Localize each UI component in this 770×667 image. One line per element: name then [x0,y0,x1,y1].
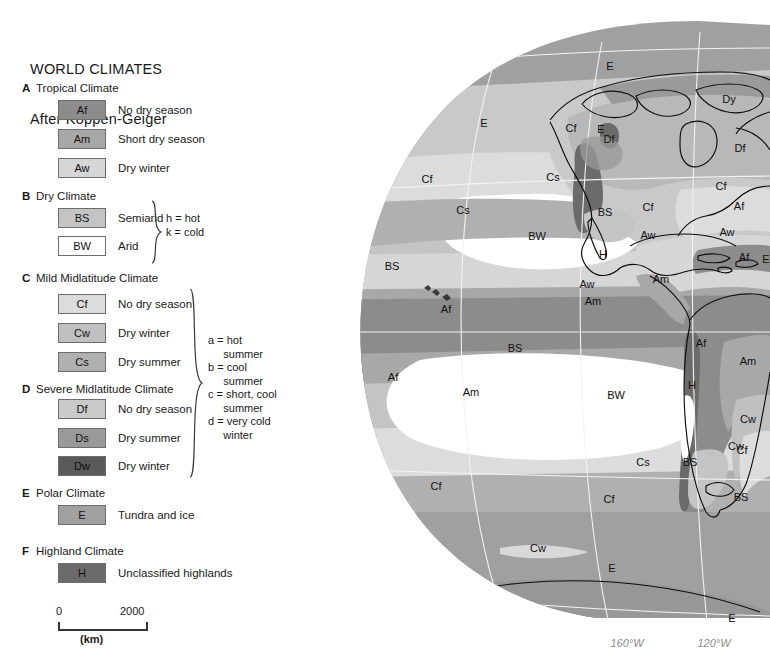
category-letter-b: B [22,190,36,202]
legend-title-line1: WORLD CLIMATES [30,61,167,78]
legend-category-e: EPolar Climate [22,487,105,499]
coastline-antarctica-peninsula [452,598,522,610]
map-label-cf-4: Cf [422,173,434,185]
globe-body [300,0,770,667]
legend-category-d: DSevere Midlatitude Climate [22,383,173,395]
scale-max-label: 2000 [120,605,144,617]
swatch-label-af: No dry season [118,100,192,120]
swatch-af: Af [58,100,106,120]
swatch-ds: Ds [58,428,106,448]
scale-bar-graphic [58,622,148,631]
swatch-label-aw: Dry winter [118,158,170,178]
map-label-h-31: H [688,379,696,391]
map-label-bs-25: BS [508,342,523,354]
scale-bar-cap-right [146,622,148,631]
legend-panel: WORLD CLIMATES After Köppen-Geiger ATrop… [0,0,300,667]
category-letter-d: D [22,383,36,395]
legend-category-f: FHighland Climate [22,545,124,557]
legend-category-c: CMild Midlatitude Climate [22,272,158,284]
map-label-e-1: E [480,117,487,129]
category-letter-a: A [22,82,36,94]
scale-units-label: (km) [80,633,103,645]
swatch-bw: BW [58,236,106,256]
scale-bar-cap-left [58,622,60,631]
map-label-e-42: E [728,612,735,624]
category-name-e: Polar Climate [36,487,105,499]
swatch-label-cf: No dry season [118,294,192,314]
map-label-cf-6: Cf [566,122,578,134]
map-label-dy-2: Dy [722,93,736,105]
map-label-cw-32: Cw [740,413,756,425]
swatch-e: E [58,505,106,525]
map-label-df-7: Df [604,133,616,145]
map-label-cf-12: Cf [716,180,728,192]
map-label-am-28: Am [463,386,480,398]
swatch-label-df: No dry season [118,399,192,419]
brace-cd [185,288,205,478]
map-label-bs-39: BS [734,491,749,503]
swatch-h: H [58,563,106,583]
map-label-e-20: E [762,253,769,265]
swatch-label-am: Short dry season [118,129,205,149]
swatch-label-h: Unclassified highlands [118,563,232,583]
swatch-df: Df [58,399,106,419]
map-label-am-29: Am [740,355,757,367]
swatch-cw: Cw [58,323,106,343]
category-letter-e: E [22,487,36,499]
map-label-bw-30: BW [607,389,625,401]
map-longitude-labels: 160°W120°W [610,637,732,649]
swatch-am: Am [58,129,106,149]
brace-b [148,200,164,264]
scale-bar-line [58,629,148,631]
swatch-bs: BS [58,208,106,228]
legend-category-a: ATropical Climate [22,82,119,94]
swatch-label-ds: Dry summer [118,428,181,448]
map-label-af-13: Af [734,200,745,212]
map-label-bs-10: BS [598,206,613,218]
map-label-e-0: E [606,60,613,72]
map-label-cs-9: Cs [456,204,470,216]
map-label-cf-36: Cf [737,444,749,456]
swatch-label-bw: Arid [118,236,138,256]
map-label-cw-40: Cw [530,542,546,554]
map-label-af-19: Af [739,251,750,263]
map-label-aw-17: Aw [640,229,655,241]
map-label-cs-34: Cs [636,456,650,468]
scale-min-label: 0 [56,605,62,617]
longitude-label-0: 160°W [610,637,645,649]
map-label-cf-38: Cf [431,480,443,492]
map-label-cs-5: Cs [546,171,560,183]
brace-note-b: h = hot k = cold [166,212,204,239]
swatch-dw: Dw [58,456,106,476]
swatch-cs: Cs [58,352,106,372]
category-name-c: Mild Midlatitude Climate [36,272,158,284]
category-name-d: Severe Midlatitude Climate [36,383,173,395]
map-label-cf-11: Cf [643,201,655,213]
category-name-a: Tropical Climate [36,82,119,94]
swatch-cf: Cf [58,294,106,314]
legend-category-b: BDry Climate [22,190,96,202]
category-letter-c: C [22,272,36,284]
map-svg: EEDyECfCsCfDfDfCsBSCfCfAfHBWBSAwAwAfEAwA… [300,0,770,667]
map-label-cf-37: Cf [604,493,616,505]
scale-tick-labels: 0 2000 [58,605,178,619]
category-letter-f: F [22,545,36,557]
map-label-df-8: Df [735,142,747,154]
swatch-label-e: Tundra and ice [118,505,194,525]
brace-note-cd: a = hot summer b = cool summer c = short… [208,334,277,442]
map-label-bw-15: BW [528,230,546,242]
map-label-bs-35: BS [683,456,698,468]
swatch-aw: Aw [58,158,106,178]
map-label-af-24: Af [441,303,452,315]
map-label-aw-21: Aw [579,278,594,290]
longitude-label-1: 120°W [697,637,732,649]
map-label-aw-18: Aw [719,226,734,238]
map-label-am-22: Am [653,273,670,285]
figure-caption-partial [30,655,750,667]
map-label-am-23: Am [585,295,602,307]
swatch-label-cw: Dry winter [118,323,170,343]
map-label-af-27: Af [696,337,707,349]
region-bw-pacific-south [387,353,714,460]
swatch-label-cs: Dry summer [118,352,181,372]
category-name-b: Dry Climate [36,190,96,202]
